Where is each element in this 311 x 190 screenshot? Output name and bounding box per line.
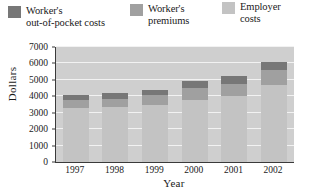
y-axis-tick-label: 6000	[29, 58, 48, 68]
x-axis-tick-label: 2000	[181, 165, 207, 175]
legend-swatch-employer-costs	[222, 2, 235, 14]
stacked-bar-chart: Worker's out-of-pocket costs Worker's pr…	[0, 0, 311, 190]
bar-segment	[221, 76, 247, 84]
legend-label-workers-out-of-pocket-costs: Worker's out-of-pocket costs	[26, 5, 105, 28]
x-axis-tick-label: 2001	[220, 165, 246, 175]
bar-group	[56, 47, 294, 162]
bar-segment	[221, 96, 247, 162]
legend-label-workers-premiums: Worker's premiums	[148, 3, 189, 26]
y-axis-tick-label: 3000	[29, 108, 48, 118]
legend-item-workers-premiums: Worker's premiums	[130, 3, 189, 26]
legend-swatch-workers-out-of-pocket-costs	[8, 6, 21, 18]
chart-legend: Worker's out-of-pocket costs Worker's pr…	[0, 0, 311, 36]
y-axis-tick-labels: 01000200030004000500060007000	[0, 47, 52, 162]
bar-2002	[261, 62, 287, 162]
y-axis-tick-label: 4000	[29, 91, 48, 101]
bar-segment	[261, 70, 287, 85]
legend-item-workers-out-of-pocket-costs: Worker's out-of-pocket costs	[8, 5, 105, 28]
x-axis-tick-label: 2002	[260, 165, 286, 175]
bar-segment	[63, 108, 89, 162]
x-axis-tick-label: 1999	[141, 165, 167, 175]
bar-segment	[63, 100, 89, 108]
bar-2001	[221, 76, 247, 162]
x-axis-tick-label: 1997	[62, 165, 88, 175]
legend-item-employer-costs: Employer costs	[222, 1, 281, 24]
bar-segment	[182, 81, 208, 88]
bar-1998	[102, 93, 128, 162]
legend-swatch-workers-premiums	[130, 4, 143, 16]
legend-label-employer-costs: Employer costs	[240, 1, 281, 24]
bar-segment	[142, 95, 168, 105]
bar-segment	[221, 84, 247, 96]
bar-segment	[142, 105, 168, 162]
x-axis-tick-label: 1998	[101, 165, 127, 175]
y-axis-tick-label: 5000	[29, 75, 48, 85]
y-axis-tick-label: 2000	[29, 124, 48, 134]
bar-segment	[102, 99, 128, 107]
bar-segment	[102, 107, 128, 162]
bar-segment	[182, 100, 208, 162]
y-axis-tick-label: 0	[43, 157, 48, 167]
bar-2000	[182, 81, 208, 162]
y-axis-tick-label: 1000	[29, 141, 48, 151]
y-axis-tick-label: 7000	[29, 42, 48, 52]
x-axis-tick-labels: 199719981999200020012002	[55, 165, 293, 175]
x-axis-title: Year	[55, 177, 293, 189]
bar-segment	[261, 85, 287, 162]
bar-1999	[142, 90, 168, 162]
bar-segment	[261, 62, 287, 70]
bar-segment	[182, 88, 208, 100]
bar-1997	[63, 95, 89, 162]
plot-area	[55, 47, 294, 163]
